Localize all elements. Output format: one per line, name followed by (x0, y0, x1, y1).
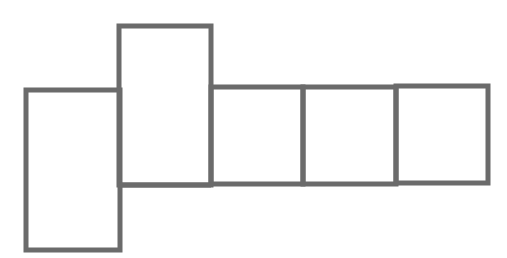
face-row-3 (396, 86, 488, 183)
face-row-1 (211, 87, 303, 184)
face-left (26, 90, 120, 250)
cube-net-diagram (0, 0, 507, 258)
face-raised (119, 26, 211, 185)
face-row-2 (303, 87, 396, 184)
